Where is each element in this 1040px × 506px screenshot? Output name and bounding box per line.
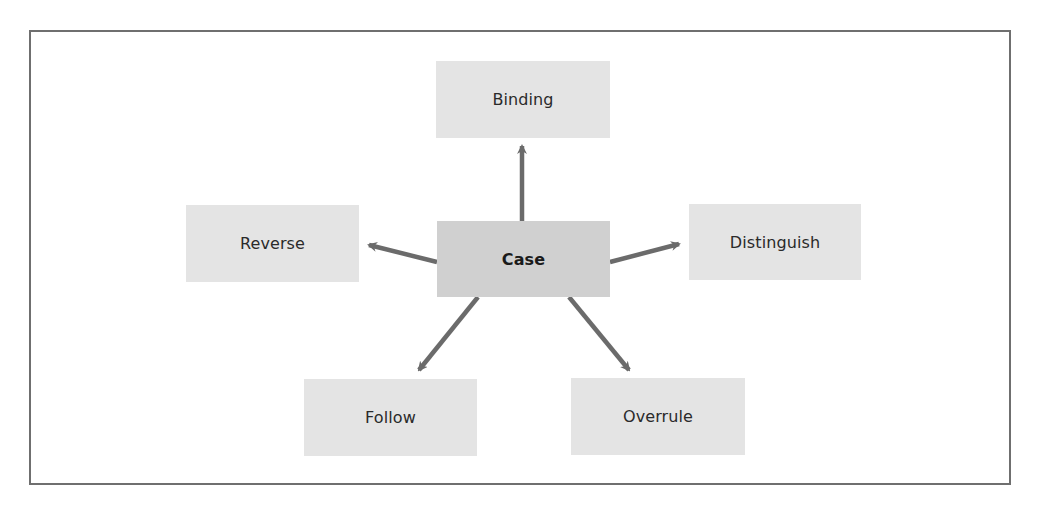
node-reverse: Reverse — [186, 205, 359, 282]
node-overrule: Overrule — [571, 378, 745, 455]
node-case-label: Case — [502, 250, 545, 269]
node-distinguish-label: Distinguish — [730, 233, 820, 252]
node-binding-label: Binding — [492, 90, 553, 109]
node-overrule-label: Overrule — [623, 407, 693, 426]
node-follow-label: Follow — [365, 408, 416, 427]
node-case: Case — [437, 221, 610, 297]
node-follow: Follow — [304, 379, 477, 456]
node-binding: Binding — [436, 61, 610, 138]
node-reverse-label: Reverse — [240, 234, 305, 253]
node-distinguish: Distinguish — [689, 204, 861, 280]
